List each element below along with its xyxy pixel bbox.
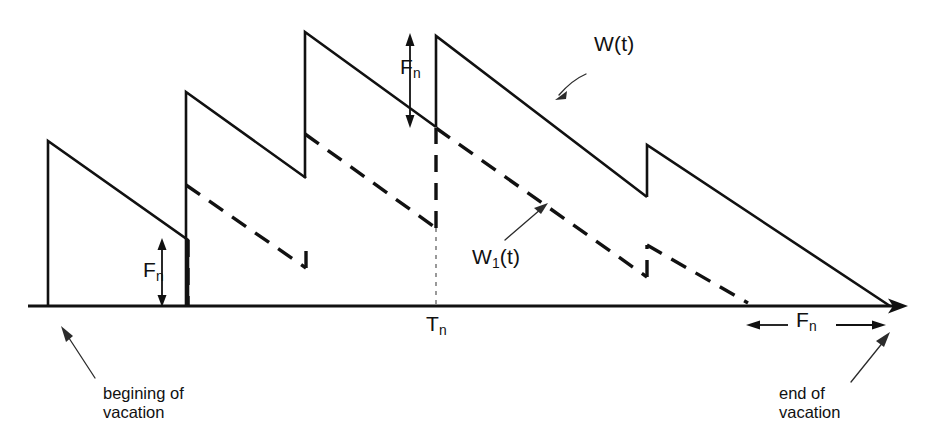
diagram-svg xyxy=(0,0,935,444)
end-note-line2: vacation xyxy=(779,403,840,421)
leader-end-line xyxy=(851,341,884,382)
label-w1-subscript: 1 xyxy=(492,255,500,271)
label-t-n: Tn xyxy=(426,312,447,338)
w1-seg-2 xyxy=(305,134,436,228)
end-note-line1: end of xyxy=(779,384,825,402)
label-end-of-vacation: end ofvacation xyxy=(779,384,840,422)
begin-note-line2: vacation xyxy=(103,403,164,421)
leader-end-vacation xyxy=(851,332,890,382)
w-tooth-2 xyxy=(186,92,306,306)
leader-w-curve xyxy=(559,74,586,95)
w1-seg-3 xyxy=(436,128,647,277)
label-fn3-base: F xyxy=(796,308,809,331)
label-begining-of-vacation: begining ofvacation xyxy=(103,384,184,422)
w1-seg-1 xyxy=(186,185,306,268)
fn-upper-arrow-up-icon xyxy=(406,33,415,46)
leader-begin-line xyxy=(67,335,95,378)
leader-w-of-t xyxy=(555,74,586,100)
figure-canvas: W(t) W1(t) Tn Fn Fn Fn begining ofvacati… xyxy=(0,0,935,444)
label-w1-base: W xyxy=(472,245,492,268)
leader-w1-of-t xyxy=(505,203,548,240)
w-tooth-4 xyxy=(436,36,647,197)
w-tooth-3 xyxy=(305,32,436,178)
label-f-n-horizontal: Fn xyxy=(796,308,817,334)
label-fn3-subscript: n xyxy=(809,318,817,334)
begin-note-line1: begining of xyxy=(103,384,184,402)
label-fn1-subscript: n xyxy=(156,268,164,284)
series-w-of-t xyxy=(48,32,890,306)
leader-w1-line xyxy=(505,209,541,240)
leader-begin-vacation xyxy=(61,326,95,378)
fn-horiz-arrow-right-icon xyxy=(872,321,886,330)
label-w1-of-t: W1(t) xyxy=(472,245,520,271)
label-fn2-base: F xyxy=(400,55,413,78)
label-f-n-upper: Fn xyxy=(400,55,421,81)
leader-end-arrowhead-icon xyxy=(876,332,890,347)
leader-begin-arrowhead-icon xyxy=(61,326,73,342)
label-w-of-t: W(t) xyxy=(594,32,634,56)
fn-horiz-arrow-left-icon xyxy=(746,321,760,330)
label-f-n-left: Fn xyxy=(143,258,164,284)
label-fn1-base: F xyxy=(143,258,156,281)
fn-upper-arrow-down-icon xyxy=(406,115,415,128)
label-tn-base: T xyxy=(426,312,439,335)
w-tooth-1 xyxy=(48,141,188,306)
label-tn-subscript: n xyxy=(439,322,447,338)
w1-seg-4 xyxy=(647,245,748,303)
w-tooth-5 xyxy=(647,145,890,306)
leader-w1-arrowhead-icon xyxy=(534,203,548,214)
label-w1-tail: (t) xyxy=(500,245,520,268)
label-fn2-subscript: n xyxy=(413,65,421,81)
fn-left-arrow-up-icon xyxy=(158,238,167,250)
